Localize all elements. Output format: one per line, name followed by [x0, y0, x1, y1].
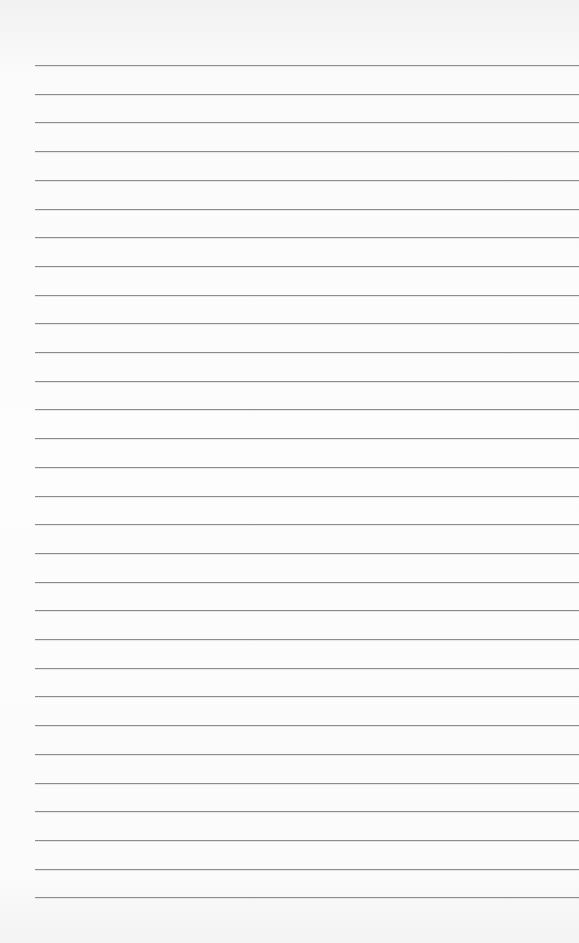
ruled-line	[35, 553, 579, 554]
ruled-line	[35, 754, 579, 755]
ruled-line	[35, 725, 579, 726]
ruled-line	[35, 151, 579, 152]
ruled-line	[35, 496, 579, 497]
ruled-line	[35, 65, 579, 66]
ruled-line	[35, 266, 579, 267]
ruled-line	[35, 237, 579, 238]
ruled-line	[35, 180, 579, 181]
ruled-line	[35, 639, 579, 640]
ruled-line	[35, 696, 579, 697]
ruled-line	[35, 323, 579, 324]
ruled-line	[35, 811, 579, 812]
ruled-line	[35, 295, 579, 296]
ruled-line	[35, 409, 579, 410]
ruled-line	[35, 122, 579, 123]
ruled-line	[35, 381, 579, 382]
ruled-line	[35, 94, 579, 95]
ruled-line	[35, 610, 579, 611]
ruled-line	[35, 438, 579, 439]
ruled-line	[35, 209, 579, 210]
ruled-line	[35, 467, 579, 468]
ruled-line	[35, 897, 579, 898]
ruled-line	[35, 668, 579, 669]
ruled-line	[35, 783, 579, 784]
ruled-line	[35, 524, 579, 525]
ruled-line	[35, 582, 579, 583]
ruled-line	[35, 840, 579, 841]
lined-paper-sheet	[0, 0, 579, 943]
ruled-line	[35, 869, 579, 870]
ruled-line	[35, 352, 579, 353]
